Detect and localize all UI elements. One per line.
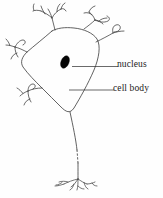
soma-outline-group: [22, 28, 100, 112]
dendrite-top-right-branch-1a: [99, 18, 107, 21]
dendrite-top-center-branch-2b: [61, 9, 66, 11]
dendrite-left-lower-branch-2a: [24, 99, 30, 105]
dendrite-top-right-branch-2b: [89, 6, 95, 12]
neuron-illustration: [0, 0, 163, 198]
dendrite-left-upper-hook: [15, 40, 25, 47]
dendrite-top-center: [52, 18, 55, 30]
dendrite-top-center-branch-1c: [33, 4, 34, 11]
cell-body-label: cell body: [113, 84, 149, 94]
dendrite-top-right: [84, 20, 95, 29]
axon-terminals-group: [55, 179, 97, 190]
dendrite-left-lower-branch-1a: [17, 88, 23, 94]
dendrite-left-lower: [28, 88, 42, 91]
axon-upper: [70, 112, 77, 150]
dendrite-left-upper-branch-1: [6, 45, 15, 47]
dendrite-left-upper: [15, 47, 27, 52]
dendrite-left-lower-hook: [28, 84, 35, 91]
axon-terminal-3c: [92, 183, 97, 186]
soma-outline: [22, 28, 100, 112]
dendrite-left-upper-branch-2: [15, 47, 18, 57]
axon-terminal-4a: [78, 186, 84, 189]
neuron-diagram-figure: nucleus cell body: [0, 0, 163, 198]
dendrite-top-center-branch-2: [52, 9, 61, 18]
dendrite-top-center-branch-2c: [61, 3, 65, 9]
dendrite-right-upper: [96, 33, 113, 42]
dendrite-left-upper-branch-1a: [6, 39, 10, 46]
axon-group: [70, 112, 78, 179]
axon-terminal-3b: [87, 182, 95, 184]
axon-break: [77, 150, 78, 163]
nucleus-shape: [59, 54, 71, 69]
nucleus-label: nucleus: [117, 60, 147, 70]
axon-terminal-1a: [59, 181, 68, 182]
dendrite-left-lower-branch-2: [28, 91, 31, 102]
axon-terminal-3: [78, 179, 87, 184]
dendrite-top-center-branch-1a: [41, 6, 45, 14]
axon-terminal-2a: [70, 184, 74, 190]
